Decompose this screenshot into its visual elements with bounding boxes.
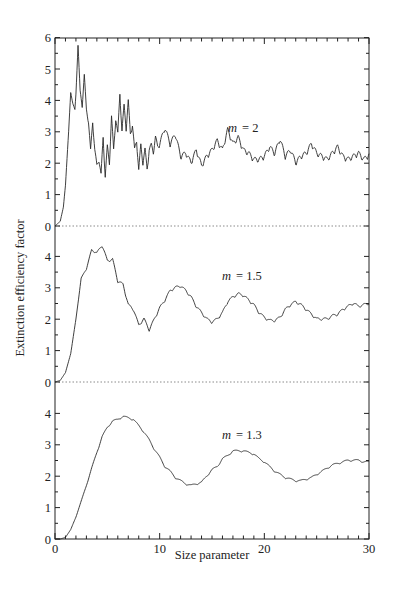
x-axis-ticks: 0102030 (52, 38, 375, 556)
annotation-symbol: m (222, 269, 231, 283)
annotation-value: = 2 (242, 121, 258, 135)
x-tick-label: 30 (363, 542, 376, 556)
y-tick-label: 0 (45, 376, 51, 390)
y-tick-label: 0 (45, 220, 51, 234)
y-tick-label: 1 (45, 188, 51, 202)
panel-1: m= 2 (55, 45, 369, 226)
plot-frame (55, 38, 369, 539)
y-tick-label: 4 (45, 94, 52, 108)
y-tick-label: 6 (45, 31, 51, 45)
x-tick-label: 10 (153, 542, 166, 556)
panel-annotation: m= 2 (228, 121, 258, 135)
extinction-efficiency-chart: m= 2m= 1.5m= 1.3 01234560123401234 01020… (0, 0, 395, 596)
y-tick-label: 2 (45, 313, 51, 327)
y-tick-label: 5 (45, 63, 51, 77)
x-tick-label: 20 (258, 542, 271, 556)
x-tick-label: 0 (52, 542, 58, 556)
panel-annotation: m= 1.5 (222, 269, 262, 283)
y-tick-label: 1 (45, 501, 51, 515)
y-tick-label: 4 (45, 407, 52, 421)
panel-2: m= 1.5 (55, 247, 369, 382)
series-line-2 (55, 247, 369, 382)
series-line-3 (55, 416, 369, 539)
annotation-symbol: m (222, 428, 231, 442)
x-axis-label: Size parameter (175, 548, 250, 562)
panel-annotation: m= 1.3 (222, 428, 262, 442)
y-tick-label: 0 (45, 533, 51, 547)
y-tick-label: 3 (45, 125, 51, 139)
annotation-value: = 1.3 (236, 428, 262, 442)
y-axis-label: Extinction efficiency factor (13, 219, 27, 357)
y-tick-label: 3 (45, 281, 51, 295)
y-axis-ticks: 01234560123401234 (45, 31, 369, 546)
chart-panels: m= 2m= 1.5m= 1.3 (55, 45, 369, 539)
y-tick-label: 4 (45, 250, 52, 264)
y-tick-label: 2 (45, 470, 51, 484)
annotation-symbol: m (228, 121, 237, 135)
plot-border (55, 38, 369, 539)
panel-3: m= 1.3 (55, 416, 369, 539)
y-tick-label: 1 (45, 344, 51, 358)
annotation-value: = 1.5 (236, 269, 262, 283)
y-tick-label: 3 (45, 438, 51, 452)
y-tick-label: 2 (45, 157, 51, 171)
series-line-1 (55, 45, 369, 226)
